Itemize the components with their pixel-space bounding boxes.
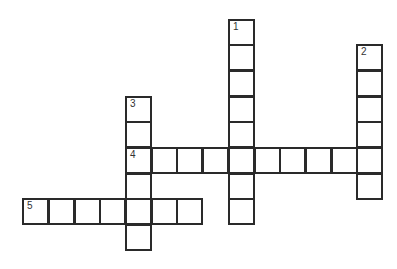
crossword-cell[interactable] (151, 147, 178, 174)
crossword-cell[interactable] (356, 121, 383, 148)
crossword-cell[interactable] (151, 198, 178, 225)
crossword-cell[interactable] (305, 147, 332, 174)
crossword-cell[interactable] (125, 173, 152, 200)
crossword-cell[interactable] (125, 121, 152, 148)
crossword-cell[interactable] (228, 96, 255, 123)
crossword-cell[interactable] (356, 70, 383, 97)
clue-number: 5 (27, 201, 33, 211)
crossword-cell[interactable]: 1 (228, 19, 255, 46)
crossword-cell[interactable] (228, 44, 255, 71)
clue-number: 4 (130, 150, 136, 160)
clue-number: 1 (233, 22, 239, 32)
crossword-cell[interactable]: 4 (125, 147, 152, 174)
clue-number: 2 (361, 47, 367, 57)
crossword-cell[interactable] (356, 96, 383, 123)
crossword-cell[interactable] (228, 173, 255, 200)
crossword-cell[interactable] (356, 147, 383, 174)
clue-number: 3 (130, 99, 136, 109)
crossword-cell[interactable] (202, 147, 229, 174)
crossword-cell[interactable]: 5 (22, 198, 49, 225)
crossword-cell[interactable] (228, 70, 255, 97)
crossword-cell[interactable] (331, 147, 358, 174)
crossword-cell[interactable] (125, 224, 152, 251)
crossword-cell[interactable] (176, 147, 203, 174)
crossword-cell[interactable] (99, 198, 126, 225)
crossword-cell[interactable]: 2 (356, 44, 383, 71)
crossword-cell[interactable]: 3 (125, 96, 152, 123)
crossword-cell[interactable] (74, 198, 101, 225)
crossword-grid: 12345 (0, 0, 397, 269)
crossword-cell[interactable] (356, 173, 383, 200)
crossword-cell[interactable] (125, 198, 152, 225)
crossword-cell[interactable] (176, 198, 203, 225)
crossword-cell[interactable] (254, 147, 281, 174)
crossword-cell[interactable] (48, 198, 75, 225)
crossword-cell[interactable] (279, 147, 306, 174)
crossword-cell[interactable] (228, 121, 255, 148)
crossword-cell[interactable] (228, 198, 255, 225)
crossword-cell[interactable] (228, 147, 255, 174)
